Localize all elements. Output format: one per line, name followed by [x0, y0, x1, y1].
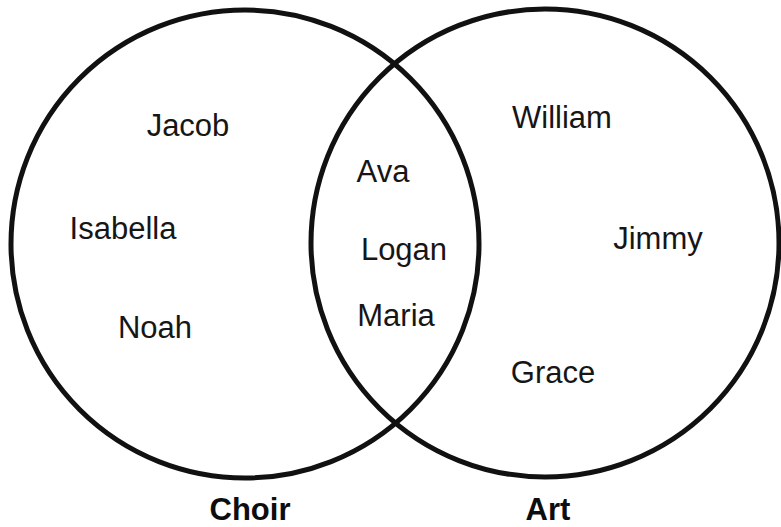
art-member-william: William — [512, 102, 612, 133]
venn-diagram: Jacob Isabella Noah Ava Logan Maria Will… — [0, 0, 781, 527]
intersection-member-logan: Logan — [361, 234, 447, 265]
art-member-jimmy: Jimmy — [613, 223, 703, 254]
intersection-member-ava: Ava — [357, 156, 410, 187]
choir-member-noah: Noah — [118, 312, 192, 343]
intersection-member-maria: Maria — [357, 300, 435, 331]
art-member-grace: Grace — [511, 357, 595, 388]
choir-member-jacob: Jacob — [147, 110, 230, 141]
choir-set-title: Choir — [210, 494, 291, 525]
choir-member-isabella: Isabella — [70, 213, 177, 244]
art-set-title: Art — [526, 494, 571, 525]
